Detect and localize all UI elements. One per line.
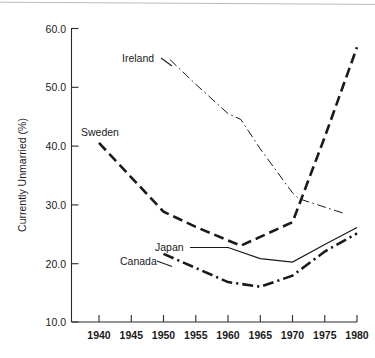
x-tick-label-1975: 1975 bbox=[313, 329, 337, 341]
series-label-sweden: Sweden bbox=[81, 126, 119, 138]
y-tick-label-60: 60.0 bbox=[46, 23, 67, 35]
series-label-canada: Canada bbox=[120, 255, 157, 267]
series-line-ireland bbox=[170, 60, 344, 214]
x-tick-label-1965: 1965 bbox=[249, 329, 273, 341]
x-tick-label-1980: 1980 bbox=[345, 329, 369, 341]
y-tick-label-30: 30.0 bbox=[46, 199, 67, 211]
series-group bbox=[99, 47, 357, 287]
y-tick-label-10: 10.0 bbox=[46, 316, 67, 328]
series-label-ireland: Ireland bbox=[122, 52, 154, 64]
x-tick-label-1950: 1950 bbox=[152, 329, 176, 341]
y-axis bbox=[72, 28, 79, 322]
leader-line-canada bbox=[157, 261, 172, 267]
y-tick-label-20: 20.0 bbox=[46, 258, 67, 270]
x-tick-label-1940: 1940 bbox=[87, 329, 111, 341]
leader-line-ireland bbox=[161, 58, 172, 66]
x-tick-label-1970: 1970 bbox=[281, 329, 305, 341]
y-tick-label-50: 50.0 bbox=[46, 81, 67, 93]
line-chart: 60.0 50.0 40.0 30.0 20.0 10.0 1940 1945 … bbox=[0, 0, 375, 358]
y-tick-labels: 60.0 50.0 40.0 30.0 20.0 10.0 bbox=[46, 23, 67, 329]
series-line-sweden bbox=[99, 47, 357, 245]
series-label-japan: Japan bbox=[155, 241, 184, 253]
x-tick-labels: 1940 1945 1950 1955 1960 1965 1970 1975 … bbox=[87, 329, 369, 341]
x-tick-label-1960: 1960 bbox=[216, 329, 240, 341]
x-tick-label-1955: 1955 bbox=[184, 329, 208, 341]
x-axis bbox=[72, 315, 358, 322]
series-annotations: Ireland Sweden Japan Canada bbox=[81, 52, 229, 267]
y-axis-title: Currently Unmarried (%) bbox=[16, 118, 28, 232]
y-tick-label-40: 40.0 bbox=[46, 140, 67, 152]
x-tick-label-1945: 1945 bbox=[120, 329, 144, 341]
figure-root: 60.0 50.0 40.0 30.0 20.0 10.0 1940 1945 … bbox=[0, 0, 375, 358]
series-line-canada bbox=[164, 233, 358, 286]
